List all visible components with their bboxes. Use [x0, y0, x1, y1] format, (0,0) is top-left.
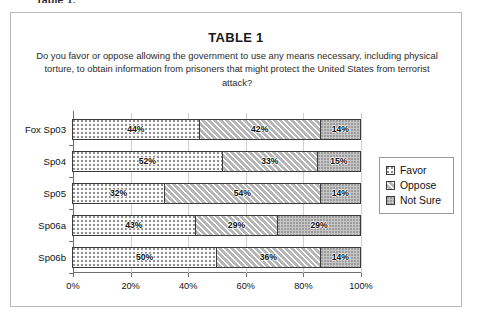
bar-segment-favor: 50% [72, 247, 217, 268]
bar-segment-not-sure: 14% [320, 119, 361, 140]
y-axis-category-label: Sp06b [0, 247, 66, 268]
x-axis-tick-label: 20% [121, 281, 139, 291]
y-axis-tick [69, 241, 73, 242]
bar-segment-value: 32% [110, 188, 127, 198]
legend-label-not-sure: Not Sure [400, 195, 441, 206]
bar-segment-oppose: 29% [195, 215, 279, 236]
bar-segment-favor: 52% [72, 151, 223, 172]
x-axis-tick [73, 273, 74, 277]
bar-segment-not-sure: 29% [277, 215, 361, 236]
bar-segment-favor: 32% [72, 183, 165, 204]
legend-swatch-favor-icon [386, 166, 395, 175]
chart-plot-area: 0%20%40%60%80%100%Fox Sp0344%42%14%Sp045… [73, 113, 361, 273]
bar-segment-value: 15% [330, 156, 347, 166]
bar-segment-value: 29% [228, 220, 245, 230]
y-axis-tick [69, 273, 73, 274]
legend-label-favor: Favor [400, 165, 427, 176]
x-axis-tick-label: 80% [294, 281, 312, 291]
bar-segment-value: 14% [332, 252, 349, 262]
stacked-bar: Sp0532%54%14% [73, 183, 361, 204]
legend-label-oppose: Oppose [400, 180, 436, 191]
bar-segment-value: 50% [136, 252, 153, 262]
bar-segment-value: 52% [139, 156, 156, 166]
bar-segment-oppose: 33% [222, 151, 318, 172]
bar-segment-value: 14% [332, 188, 349, 198]
x-axis-tick [131, 273, 132, 277]
legend-item-favor: Favor [386, 163, 448, 178]
bar-segment-value: 36% [260, 252, 277, 262]
y-axis-category-label: Fox Sp03 [0, 119, 66, 140]
stacked-bar: Fox Sp0344%42%14% [73, 119, 361, 140]
bar-segment-value: 43% [125, 220, 142, 230]
stacked-bar: Sp06a43%29%29% [73, 215, 361, 236]
bar-segment-favor: 44% [72, 119, 200, 140]
gridline [361, 113, 362, 273]
stacked-bar: Sp06b50%36%14% [73, 247, 361, 268]
page-title: TABLE 1 [11, 30, 461, 45]
legend-swatch-oppose-icon [386, 181, 395, 190]
y-axis-category-label: Sp04 [0, 151, 66, 172]
bar-segment-value: 33% [261, 156, 278, 166]
bar-segment-value: 44% [127, 124, 144, 134]
x-axis-tick [188, 273, 189, 277]
x-axis-tick [361, 273, 362, 277]
x-axis-tick-label: 60% [237, 281, 255, 291]
x-axis-tick-label: 0% [66, 281, 79, 291]
bar-segment-oppose: 42% [199, 119, 321, 140]
legend-item-not-sure: Not Sure [386, 193, 448, 208]
x-axis-tick-label: 100% [349, 281, 373, 291]
bar-segment-favor: 43% [72, 215, 196, 236]
x-axis-line [73, 272, 361, 273]
bar-segment-oppose: 36% [216, 247, 321, 268]
x-axis-tick-label: 40% [179, 281, 197, 291]
y-axis-category-label: Sp05 [0, 183, 66, 204]
bar-segment-value: 54% [234, 188, 251, 198]
stacked-bar: Sp0452%33%15% [73, 151, 361, 172]
figure-caption-top: Table 1. [36, 0, 76, 3]
y-axis-tick [69, 209, 73, 210]
legend-swatch-not-sure-icon [386, 196, 395, 205]
legend-item-oppose: Oppose [386, 178, 448, 193]
y-axis-tick [69, 177, 73, 178]
bar-segment-not-sure: 15% [317, 151, 361, 172]
x-axis-tick [303, 273, 304, 277]
survey-question-text: Do you favor or oppose allowing the gove… [33, 49, 441, 89]
bar-segment-value: 42% [251, 124, 268, 134]
bar-segment-value: 14% [332, 124, 349, 134]
y-axis-category-label: Sp06a [0, 215, 66, 236]
chart-legend: Favor Oppose Not Sure [379, 157, 454, 214]
bar-segment-not-sure: 14% [320, 247, 361, 268]
x-axis-tick [246, 273, 247, 277]
y-axis-tick [69, 145, 73, 146]
bar-segment-oppose: 54% [164, 183, 321, 204]
bar-segment-value: 29% [311, 220, 328, 230]
bar-segment-not-sure: 14% [320, 183, 361, 204]
